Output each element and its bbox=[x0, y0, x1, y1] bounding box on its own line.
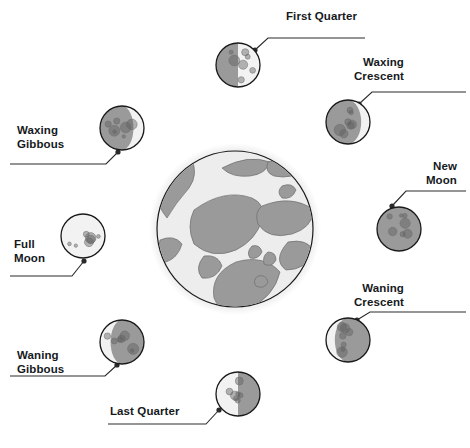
moon-last-quarter[interactable] bbox=[215, 372, 260, 416]
moon-waning-crescent[interactable] bbox=[326, 318, 370, 362]
phase-label-last-quarter: Last Quarter bbox=[110, 405, 180, 419]
phase-label-waxing-gibbous: WaxingGibbous bbox=[17, 124, 64, 151]
phase-label-line: Crescent bbox=[354, 70, 404, 84]
moon-waxing-gibbous[interactable] bbox=[100, 106, 144, 150]
phase-label-line: Waxing bbox=[17, 124, 64, 138]
phase-label-waning-gibbous: WaningGibbous bbox=[17, 349, 64, 376]
phase-label-line: Moon bbox=[426, 174, 457, 188]
leader-line-first-quarter bbox=[255, 38, 365, 50]
moon-full-moon[interactable] bbox=[61, 214, 105, 258]
phase-label-line: Last Quarter bbox=[110, 405, 180, 419]
phase-label-new-moon: NewMoon bbox=[426, 160, 457, 187]
moon-waxing-crescent[interactable] bbox=[326, 100, 370, 144]
earth-land-11 bbox=[264, 252, 277, 265]
leader-line-waxing-crescent bbox=[359, 92, 466, 104]
moon-first-quarter[interactable] bbox=[216, 43, 261, 87]
phase-label-line: Full bbox=[14, 238, 45, 252]
phase-label-line: Moon bbox=[14, 252, 45, 266]
earth-graphic bbox=[149, 143, 321, 315]
phase-label-line: First Quarter bbox=[286, 10, 357, 24]
phase-label-line: Waning bbox=[17, 349, 64, 363]
leader-line-new-moon bbox=[392, 191, 466, 206]
leader-line-waning-crescent bbox=[357, 312, 466, 320]
leader-line-waxing-gibbous bbox=[10, 152, 118, 164]
phase-label-line: Gibbous bbox=[17, 363, 64, 377]
phase-label-line: New bbox=[426, 160, 457, 174]
phase-label-first-quarter: First Quarter bbox=[286, 10, 357, 24]
moon-new-moon[interactable] bbox=[377, 207, 421, 251]
phase-label-waning-crescent: WaningCrescent bbox=[354, 282, 404, 309]
leader-dot-full-moon bbox=[81, 258, 86, 263]
phase-label-line: Waxing bbox=[354, 56, 404, 70]
moon-waning-gibbous[interactable] bbox=[100, 320, 144, 364]
phase-label-full-moon: FullMoon bbox=[14, 238, 45, 265]
phase-label-line: Crescent bbox=[354, 296, 404, 310]
phase-label-line: Waning bbox=[354, 282, 404, 296]
phase-label-waxing-crescent: WaxingCrescent bbox=[354, 56, 404, 83]
phase-label-line: Gibbous bbox=[17, 138, 64, 152]
